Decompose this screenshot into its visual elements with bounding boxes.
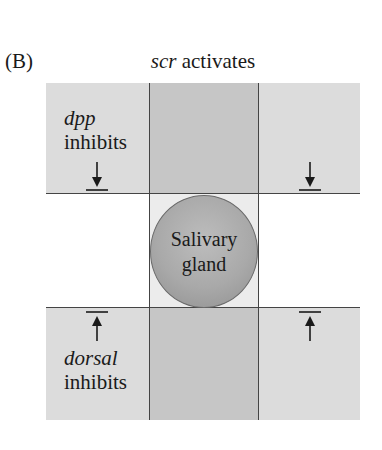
dpp-inhibits-text: inhibits — [64, 130, 127, 154]
gene-dorsal: dorsal — [64, 346, 118, 370]
gene-scr: scr — [151, 49, 177, 73]
salivary-gland: Salivary gland — [150, 195, 258, 308]
dorsal-inhibits-label: dorsal inhibits — [64, 346, 127, 394]
dorsal-inhibits-text: inhibits — [64, 370, 127, 394]
gland-label-line1: Salivary — [171, 227, 238, 252]
inhibition-arrow-up-icon — [299, 311, 323, 343]
panel-label: (B) — [5, 49, 33, 74]
gene-dpp: dpp — [64, 106, 96, 130]
scr-activates-title: scr activates — [146, 49, 260, 74]
top-boundary-line — [46, 193, 360, 194]
inhibition-arrow-up-icon — [86, 311, 110, 343]
title-text: activates — [176, 49, 255, 73]
dpp-inhibits-label: dpp inhibits — [64, 106, 127, 154]
gland-label-line2: gland — [182, 252, 226, 277]
inhibition-arrow-down-icon — [86, 162, 110, 192]
inhibition-arrow-down-icon — [299, 162, 323, 192]
